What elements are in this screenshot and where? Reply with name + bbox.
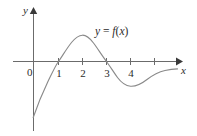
- x-tick-label-3: 3: [100, 67, 114, 79]
- x-tick-label-1: 1: [52, 67, 66, 79]
- curve-equation-label: y = f(x): [95, 25, 128, 38]
- function-graph-figure: 0 y x 1 2 3 4 y = f(x): [0, 0, 197, 136]
- origin-label: 0: [27, 66, 33, 78]
- y-axis-arrowhead: [30, 7, 37, 14]
- curve-label-close-paren: ): [125, 25, 129, 37]
- x-tick-label-4: 4: [124, 67, 138, 79]
- x-axis-label: x: [181, 64, 186, 76]
- y-axis-label: y: [23, 4, 28, 16]
- x-tick-label-2: 2: [76, 67, 90, 79]
